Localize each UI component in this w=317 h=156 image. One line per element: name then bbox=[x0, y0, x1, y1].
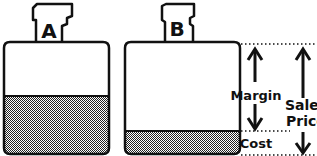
margin-up-arrow-icon bbox=[248, 49, 262, 82]
bottle-b: B bbox=[120, 4, 245, 156]
bottle-a-fill bbox=[0, 96, 115, 156]
bottle-a-label: A bbox=[41, 19, 57, 43]
margin-label: Margin bbox=[230, 88, 281, 103]
bottle-a: A bbox=[0, 4, 115, 156]
sales-price-up-arrow-icon bbox=[296, 49, 310, 98]
cost-label: Cost bbox=[240, 136, 272, 151]
sales-price-down-arrow-icon bbox=[296, 132, 310, 153]
bottle-b-fill bbox=[120, 130, 245, 156]
margin-down-arrow-icon bbox=[248, 104, 262, 129]
sales-label: Sales bbox=[285, 97, 317, 113]
bottle-diagram: A B Margin Cost Sales Price bbox=[0, 0, 317, 156]
bottle-b-label: B bbox=[169, 17, 184, 41]
price-label: Price bbox=[286, 113, 317, 129]
